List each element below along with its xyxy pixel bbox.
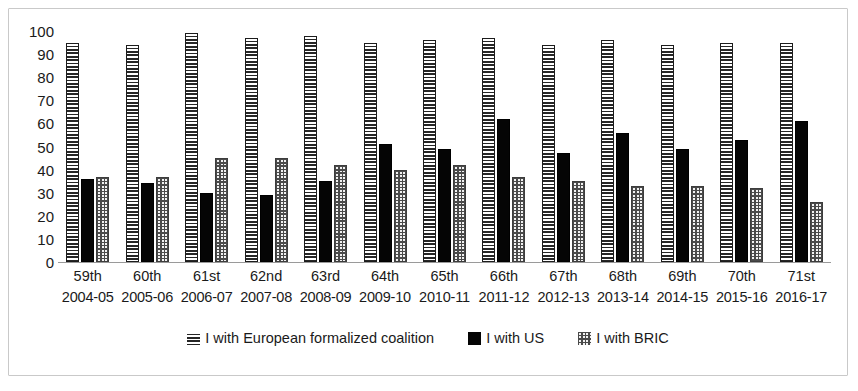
x-label-years: 2008-09 [296,287,355,308]
y-axis-tick-label: 10 [14,231,54,246]
x-label-years: 2005-06 [117,287,176,308]
bar-group [712,31,771,262]
bar [512,177,525,262]
bar-group [534,31,593,262]
bar-chart: 1009080706050403020100 59th2004-0560th20… [0,0,858,391]
legend-label: I with BRIC [596,330,669,346]
bar [735,140,748,262]
x-axis-tick-label: 59th2004-05 [58,266,117,308]
bar [720,43,733,262]
bar-group [236,31,295,262]
bar [96,177,109,262]
y-axis-tick-label: 100 [14,24,54,39]
bar-group [653,31,712,262]
y-axis-tick-label: 20 [14,208,54,223]
x-label-ordinal: 68th [593,266,652,287]
bar [810,202,823,262]
bar-group [772,31,831,262]
x-label-ordinal: 59th [58,266,117,287]
x-axis-tick-label: 70th2015-16 [712,266,771,308]
x-axis-tick-label: 71st2016-17 [772,266,831,308]
bar [438,149,451,262]
bar [616,133,629,262]
y-axis-tick-label: 70 [14,93,54,108]
bar [379,144,392,262]
bar-group [177,31,236,262]
striped-swatch-icon [187,332,200,345]
legend-item[interactable]: I with European formalized coalition [187,330,434,346]
x-axis-tick-label: 69th2014-15 [653,266,712,308]
plot-area [58,31,831,262]
bar [676,149,689,262]
x-label-ordinal: 61st [177,266,236,287]
x-label-years: 2012-13 [534,287,593,308]
x-label-ordinal: 64th [355,266,414,287]
y-axis-tick-label: 0 [14,255,54,270]
chart-legend: I with European formalized coalitionI wi… [8,330,848,346]
x-label-ordinal: 70th [712,266,771,287]
x-label-years: 2014-15 [653,287,712,308]
x-axis-tick-label: 61st2006-07 [177,266,236,308]
bar [542,45,555,262]
bar [215,158,228,262]
legend-item[interactable]: I with BRIC [578,330,669,346]
bar [141,183,154,262]
bar [66,43,79,262]
bar [601,40,614,262]
bar [200,193,213,262]
x-axis-tick-label: 64th2009-10 [355,266,414,308]
x-label-ordinal: 67th [534,266,593,287]
bar-group [474,31,533,262]
bar [319,181,332,262]
x-label-years: 2004-05 [58,287,117,308]
bar [334,165,347,262]
x-label-ordinal: 71st [772,266,831,287]
x-axis-tick-label: 62nd2007-08 [236,266,295,308]
x-axis-tick-label: 60th2005-06 [117,266,176,308]
bar [394,170,407,262]
bar [260,195,273,262]
x-label-years: 2009-10 [355,287,414,308]
bar [126,45,139,262]
legend-item[interactable]: I with US [468,330,544,346]
x-label-years: 2016-17 [772,287,831,308]
x-axis-labels: 59th2004-0560th2005-0661st2006-0762nd200… [58,266,831,316]
bar [661,45,674,262]
x-axis-tick-label: 66th2011-12 [474,266,533,308]
bar [453,165,466,262]
x-label-ordinal: 60th [117,266,176,287]
x-label-years: 2010-11 [415,287,474,308]
bar-group [593,31,652,262]
x-label-ordinal: 63rd [296,266,355,287]
y-axis-tick-label: 50 [14,139,54,154]
x-label-years: 2006-07 [177,287,236,308]
bar [572,181,585,262]
bar [780,43,793,262]
x-label-years: 2007-08 [236,287,295,308]
bar-group [296,31,355,262]
legend-label: I with European formalized coalition [205,330,434,346]
bar [691,186,704,262]
x-axis-line [58,262,831,263]
bar-group [58,31,117,262]
y-axis: 1009080706050403020100 [14,31,54,262]
y-axis-tick-label: 40 [14,162,54,177]
x-label-ordinal: 66th [474,266,533,287]
y-axis-tick-label: 90 [14,47,54,62]
bar [423,40,436,262]
bar [497,119,510,262]
x-label-ordinal: 65th [415,266,474,287]
bar [482,38,495,262]
x-axis-tick-label: 67th2012-13 [534,266,593,308]
legend-label: I with US [486,330,544,346]
bar [631,186,644,262]
y-axis-tick-label: 30 [14,185,54,200]
y-axis-tick-label: 80 [14,70,54,85]
bar [364,43,377,262]
bar-group [355,31,414,262]
x-label-years: 2011-12 [474,287,533,308]
x-label-ordinal: 69th [653,266,712,287]
bar [245,38,258,262]
bar [185,33,198,262]
bar [557,153,570,262]
